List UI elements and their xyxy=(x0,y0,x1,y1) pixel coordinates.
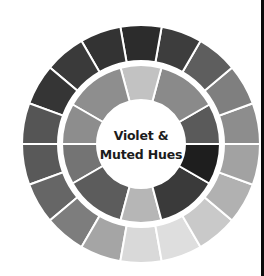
center-title-line-2: Muted Hues xyxy=(100,145,182,164)
wheel-center-label: Violet & Muted Hues xyxy=(98,118,184,172)
center-title-line-1: Violet & xyxy=(114,126,169,145)
right-border-rule xyxy=(261,0,264,276)
